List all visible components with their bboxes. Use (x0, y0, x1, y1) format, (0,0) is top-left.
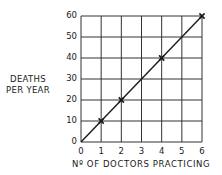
x-axis-label: Nº OF DOCTORS PRACTICING (72, 159, 210, 169)
x-tick-label: 4 (157, 146, 167, 156)
x-tick-label: 2 (116, 146, 126, 156)
y-tick-label: 40 (61, 52, 77, 62)
y-axis-label-line1: DEATHS (0, 74, 56, 85)
x-tick-label: 6 (197, 146, 207, 156)
x-tick-label: 3 (137, 146, 147, 156)
y-axis-label: DEATHS PER YEAR (0, 74, 56, 96)
y-tick-label: 0 (61, 136, 77, 146)
y-tick-label: 10 (61, 115, 77, 125)
y-tick-label: 20 (61, 94, 77, 104)
x-tick-label: 1 (96, 146, 106, 156)
y-tick-label: 50 (61, 31, 77, 41)
y-axis-label-line2: PER YEAR (0, 85, 56, 96)
x-tick-label: 5 (177, 146, 187, 156)
x-tick-label: 0 (76, 146, 86, 156)
y-tick-label: 60 (61, 10, 77, 20)
y-tick-label: 30 (61, 73, 77, 83)
